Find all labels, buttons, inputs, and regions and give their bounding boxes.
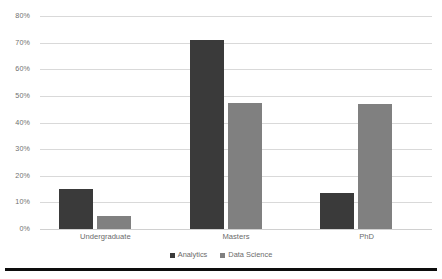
y-axis-tick-label: 70% — [0, 39, 30, 46]
bar[interactable] — [97, 216, 131, 229]
legend-item[interactable]: Analytics — [170, 251, 208, 259]
gridline-0pct — [40, 229, 432, 230]
bar-group — [40, 16, 171, 229]
y-axis-tick-label: 30% — [0, 145, 30, 152]
chart-legend: AnalyticsData Science — [0, 249, 442, 261]
bar[interactable] — [190, 40, 224, 229]
bar[interactable] — [228, 103, 262, 229]
legend-item[interactable]: Data Science — [220, 251, 272, 259]
y-axis-tick-label: 0% — [0, 225, 30, 232]
y-axis-tick-label: 50% — [0, 92, 30, 99]
bars-layer — [40, 16, 432, 229]
bar[interactable] — [358, 104, 392, 229]
y-axis-tick-label: 40% — [0, 119, 30, 126]
x-axis-tick-label: Masters — [171, 232, 301, 241]
legend-swatch-icon — [170, 253, 175, 258]
y-axis-tick-label: 20% — [0, 172, 30, 179]
bottom-rule — [5, 268, 437, 271]
legend-label: Analytics — [178, 251, 208, 259]
y-axis-tick-label: 60% — [0, 65, 30, 72]
x-axis: UndergraduateMastersPhD — [40, 232, 432, 246]
x-axis-tick-label: PhD — [302, 232, 432, 241]
grouped-bar-chart: 0%10%20%30%40%50%60%70%80% Undergraduate… — [0, 0, 442, 279]
bar-group — [171, 16, 302, 229]
bar-group — [301, 16, 432, 229]
x-axis-tick-label: Undergraduate — [40, 232, 170, 241]
y-axis-tick-label: 10% — [0, 198, 30, 205]
legend-swatch-icon — [220, 253, 225, 258]
bar[interactable] — [320, 193, 354, 229]
y-axis-tick-label: 80% — [0, 12, 30, 19]
legend-label: Data Science — [228, 251, 272, 259]
bar[interactable] — [59, 189, 93, 229]
